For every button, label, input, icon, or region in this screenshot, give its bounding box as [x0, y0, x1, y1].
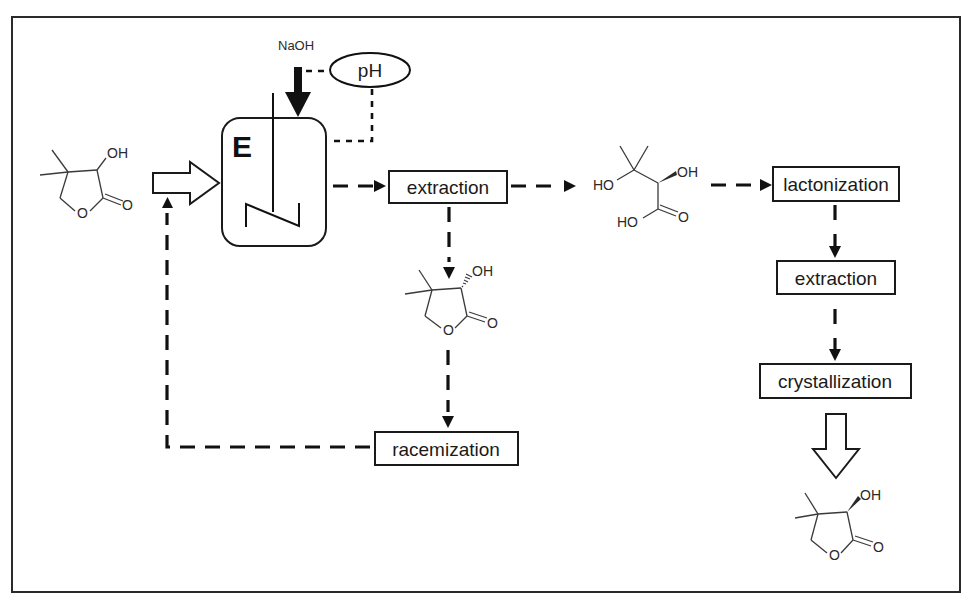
node-extraction-2: extraction [777, 261, 895, 294]
atom-label: O [678, 209, 689, 225]
arrow-head-icon [829, 246, 841, 258]
node-label: racemization [392, 439, 500, 460]
atom-label: O [122, 197, 133, 213]
recycle-line [167, 213, 370, 447]
feed-arrow-icon [153, 162, 219, 204]
atom-label: O [443, 322, 454, 338]
molecule-r-lactone: OH O O [795, 487, 884, 563]
product-arrow-icon [813, 414, 859, 478]
atom-label: O [873, 539, 884, 555]
process-diagram: OH O O E NaOH pH extraction [0, 0, 972, 601]
molecule-racemic-lactone: OH O O [40, 145, 133, 221]
arrow-head-icon [829, 349, 841, 361]
arrow-head-icon [442, 416, 454, 428]
arrow-head-icon [443, 267, 455, 279]
arrow-head-icon [162, 197, 173, 208]
diagram-frame [12, 17, 960, 592]
naoh-label: NaOH [278, 38, 314, 53]
molecule-hydroxy-acid: HO OH HO O [593, 146, 698, 230]
node-label: crystallization [778, 371, 892, 392]
atom-label: OH [472, 263, 493, 279]
arrow-head-icon [760, 179, 772, 191]
atom-label: HO [593, 177, 614, 193]
molecule-s-lactone: OH O O [405, 263, 498, 338]
ph-probe-line [329, 89, 372, 141]
enzyme-label: E [232, 130, 252, 163]
atom-label: O [77, 205, 88, 221]
atom-label: OH [677, 164, 698, 180]
atom-label: O [487, 315, 498, 331]
node-label: lactonization [783, 174, 889, 195]
naoh-arrow-head-icon [285, 92, 311, 117]
node-label: extraction [795, 268, 877, 289]
reactor: E [222, 93, 326, 246]
naoh-arrow-shaft [294, 67, 302, 93]
node-label: extraction [407, 177, 489, 198]
atom-label: O [829, 547, 840, 563]
node-racemization: racemization [375, 432, 518, 465]
atom-label: HO [617, 214, 638, 230]
arrow-head-icon [564, 180, 576, 192]
node-extraction-1: extraction [389, 171, 507, 203]
atom-label: OH [107, 145, 128, 161]
ph-label: pH [358, 60, 382, 81]
atom-label: OH [860, 487, 881, 503]
node-lactonization: lactonization [773, 167, 899, 201]
arrow-head-icon [374, 180, 386, 192]
node-crystallization: crystallization [760, 364, 911, 398]
